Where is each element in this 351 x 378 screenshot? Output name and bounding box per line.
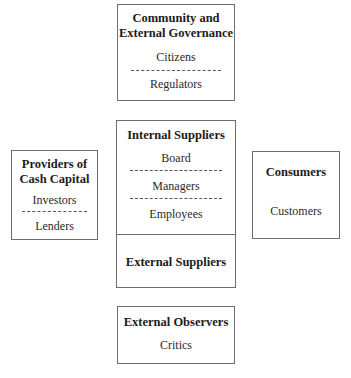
external-observers-title: External Observers <box>118 315 234 330</box>
employees-label: Employees <box>117 207 235 221</box>
critics-label: Critics <box>118 338 234 352</box>
investors-label: Investors <box>12 193 97 207</box>
regulators-label: Regulators <box>118 77 234 91</box>
external-observers-box: External Observers Critics <box>117 306 235 364</box>
providers-title-line2: Cash Capital <box>12 172 97 187</box>
managers-label: Managers <box>117 179 235 193</box>
internal-suppliers-title: Internal Suppliers <box>117 128 235 143</box>
external-suppliers-title: External Suppliers <box>117 255 235 270</box>
divider-dashed <box>130 198 222 199</box>
providers-cash-capital-box: Providers of Cash Capital Investors Lend… <box>11 150 98 240</box>
customers-label: Customers <box>253 204 339 218</box>
internal-external-divider <box>117 234 235 235</box>
consumers-title: Consumers <box>253 165 339 180</box>
lenders-label: Lenders <box>12 219 97 233</box>
community-governance-title-line2: External Governance <box>118 26 234 41</box>
consumers-box: Consumers Customers <box>252 151 340 239</box>
board-label: Board <box>117 151 235 165</box>
divider-dashed <box>131 70 221 71</box>
community-governance-title-line1: Community and <box>118 11 234 26</box>
providers-title-line1: Providers of <box>12 157 97 172</box>
community-external-governance-box: Community and External Governance Citize… <box>117 4 235 101</box>
divider-dashed <box>130 170 222 171</box>
citizens-label: Citizens <box>118 50 234 64</box>
divider-dashed <box>22 211 87 212</box>
suppliers-box: Internal Suppliers Board Managers Employ… <box>116 120 236 288</box>
